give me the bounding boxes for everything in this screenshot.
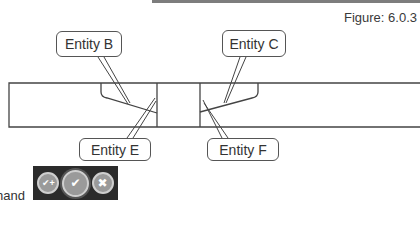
check-icon: ✔ — [70, 177, 80, 189]
command-toolbar: ✔+ ✔ ✖ — [33, 166, 118, 200]
cancel-button[interactable]: ✖ — [92, 172, 114, 194]
callout-entity-b: Entity B — [56, 31, 122, 57]
callout-entity-e: Entity E — [79, 138, 151, 161]
close-icon: ✖ — [98, 177, 108, 189]
check-plus-icon: ✔+ — [42, 179, 55, 188]
partial-text: hand — [0, 188, 25, 202]
ok-button[interactable]: ✔ — [62, 170, 89, 197]
callout-entity-c: Entity C — [222, 30, 286, 57]
ok-and-continue-button[interactable]: ✔+ — [37, 172, 59, 194]
callout-entity-f: Entity F — [207, 138, 279, 161]
